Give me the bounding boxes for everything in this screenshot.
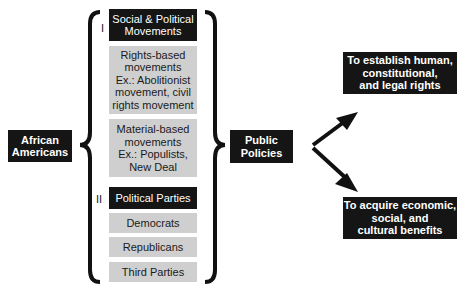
outcome-benefits-box: To acquire economic, social, and cultura… [343, 197, 457, 239]
material-based-movements-box: Material-based movements Ex.: Populists,… [109, 119, 197, 177]
democrats-box: Democrats [109, 213, 197, 233]
public-policies-box: Public Policies [230, 130, 293, 163]
section-2-numeral: II [96, 193, 102, 205]
left-brace [80, 12, 100, 282]
social-political-movements-header: Social & Political Movements [109, 9, 197, 41]
political-parties-header: Political Parties [109, 187, 197, 209]
third-parties-box: Third Parties [109, 262, 197, 282]
outcome-rights-box: To establish human, constitutional, and … [343, 52, 457, 94]
rights-based-movements-box: Rights-based movements Ex.: Abolitionist… [109, 46, 197, 114]
section-1-numeral: I [101, 22, 104, 34]
right-brace [205, 12, 225, 282]
african-americans-box: African Americans [8, 130, 72, 162]
republicans-box: Republicans [109, 237, 197, 257]
